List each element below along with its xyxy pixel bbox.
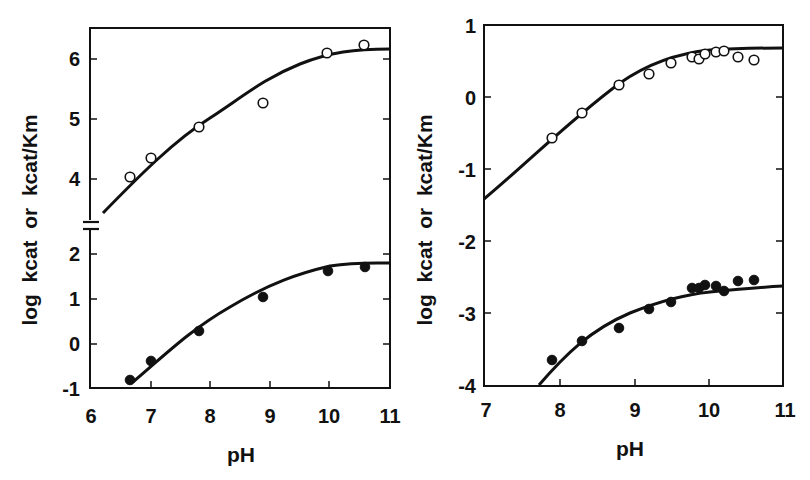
x-tick-label: 10	[698, 399, 720, 421]
series-kcat-km-points	[547, 46, 759, 143]
left-x-ticks	[151, 381, 329, 388]
fit-curve-kcat	[133, 263, 390, 382]
fit-curve-kcat	[539, 286, 783, 385]
y-tick-label: 1	[69, 288, 80, 310]
right-plot-frame	[484, 25, 783, 386]
series-kcat-points	[125, 262, 370, 385]
y-tick-label: -1	[62, 378, 80, 400]
x-axis-label: pH	[227, 443, 255, 466]
y-tick-label: 2	[69, 243, 80, 265]
y-tick-label: 0	[69, 333, 80, 355]
x-tick-label: 8	[554, 399, 565, 421]
x-tick-label: 11	[379, 405, 400, 427]
left-plot-frame	[90, 28, 390, 388]
x-tick-label: 8	[204, 405, 215, 427]
left-chart: 6 5 4 2 1 0 -1 6 7 8 9 10 11 pH log kcat…	[18, 28, 401, 466]
right-chart: 1 0 -1 -2 -3 -4 7 8 9 10 11 pH log kcat …	[413, 15, 796, 460]
x-tick-label: 6	[85, 405, 96, 427]
y-tick-label: 5	[69, 108, 80, 130]
y-tick-label: -2	[458, 231, 476, 253]
x-axis-label: pH	[616, 437, 644, 460]
y-tick-label: 1	[465, 15, 476, 37]
chart-canvas: 6 5 4 2 1 0 -1 6 7 8 9 10 11 pH log kcat…	[0, 0, 810, 480]
series-kcat-points	[547, 275, 759, 365]
y-tick-label: 0	[465, 87, 476, 109]
right-x-ticks	[560, 379, 709, 386]
y-tick-label: -4	[458, 375, 477, 397]
series-kcat-km-points	[125, 40, 369, 182]
y-axis-label: log kcat or kcat/Km	[413, 114, 436, 325]
x-tick-label: 10	[318, 405, 340, 427]
x-tick-label: 11	[774, 399, 795, 421]
y-tick-label: 4	[69, 168, 81, 190]
fit-curve-kcat-km	[103, 49, 390, 213]
y-tick-label: -3	[458, 303, 476, 325]
y-tick-label: 6	[69, 48, 80, 70]
y-axis-label: log kcat or kcat/Km	[18, 114, 41, 325]
figure: 6 5 4 2 1 0 -1 6 7 8 9 10 11 pH log kcat…	[0, 0, 810, 480]
x-tick-label: 7	[145, 405, 156, 427]
x-tick-label: 9	[629, 399, 640, 421]
x-tick-label: 9	[264, 405, 275, 427]
fit-curve-kcat-km	[484, 48, 783, 199]
y-tick-label: -1	[458, 159, 476, 181]
x-tick-label: 7	[480, 399, 491, 421]
